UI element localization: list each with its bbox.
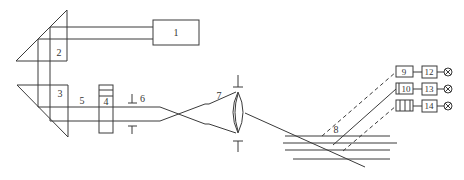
label-13: 13 [425, 84, 435, 94]
component-6-aperture: 6 [128, 93, 145, 134]
beam-source-to-prism-2 [38, 27, 153, 39]
reflected-beams [322, 72, 396, 151]
label-9: 9 [402, 67, 407, 77]
component-1-source-box: 1 [153, 20, 199, 45]
label-6: 6 [140, 93, 145, 104]
label-2: 2 [57, 47, 62, 58]
component-7-lens [233, 75, 243, 152]
detector-row-1: 9 12 [396, 66, 452, 78]
detector-row-2: 10 13 [396, 83, 452, 95]
optical-diagram: 1 2 3 5 4 6 [0, 0, 464, 180]
label-14: 14 [425, 101, 435, 111]
component-2-prism: 2 [16, 10, 67, 61]
label-1: 1 [174, 27, 179, 38]
label-3: 3 [58, 88, 63, 99]
component-3-prism: 3 [17, 85, 68, 137]
label-10: 10 [402, 84, 412, 94]
detector-row-3: 14 [396, 100, 452, 112]
label-4: 4 [104, 96, 109, 107]
label-7: 7 [217, 90, 222, 101]
beam-crossing-to-lens: 7 [160, 90, 236, 133]
component-8-sample-layers: 8 [283, 124, 397, 159]
label-12: 12 [425, 67, 434, 77]
component-4-element: 4 [99, 85, 113, 133]
label-5: 5 [80, 95, 85, 106]
